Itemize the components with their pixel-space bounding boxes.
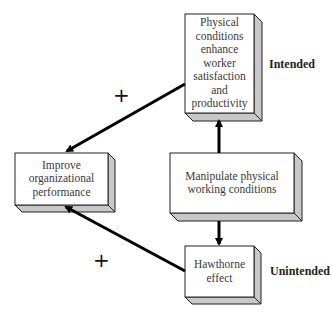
physical-conditions-line: and xyxy=(211,84,228,98)
manipulate-conditions-line: working conditions xyxy=(187,183,276,197)
physical-conditions-line: worker xyxy=(203,57,236,71)
improve-performance-text: Improve organizational performance xyxy=(15,153,108,205)
hawthorne-effect-line: Hawthorne xyxy=(194,258,245,272)
physical-conditions-line: conditions xyxy=(196,30,244,44)
physical-conditions-text: Physical conditions enhance worker satis… xyxy=(185,14,254,113)
physical-conditions-line: enhance xyxy=(201,43,239,57)
physical-conditions-line: Physical xyxy=(200,16,239,30)
physical-conditions-line: productivity xyxy=(191,97,247,111)
manipulate-conditions-text: Manipulate physical working conditions xyxy=(170,153,294,213)
improve-performance-line: Improve xyxy=(42,159,81,173)
positive-sign-upper: + xyxy=(113,85,130,105)
positive-sign-lower: + xyxy=(93,250,110,270)
hawthorne-effect-text: Hawthorne effect xyxy=(185,246,254,297)
hawthorne-effect-line: effect xyxy=(207,272,233,286)
physical-conditions-line: satisfaction xyxy=(193,70,245,84)
improve-performance-line: performance xyxy=(32,186,90,200)
improve-performance-line: organizational xyxy=(29,172,95,186)
unintended-label: Unintended xyxy=(270,264,330,279)
manipulate-conditions-line: Manipulate physical xyxy=(185,170,279,184)
arrow-hawthorne-to-improve xyxy=(66,207,185,271)
intended-label: Intended xyxy=(269,57,315,72)
